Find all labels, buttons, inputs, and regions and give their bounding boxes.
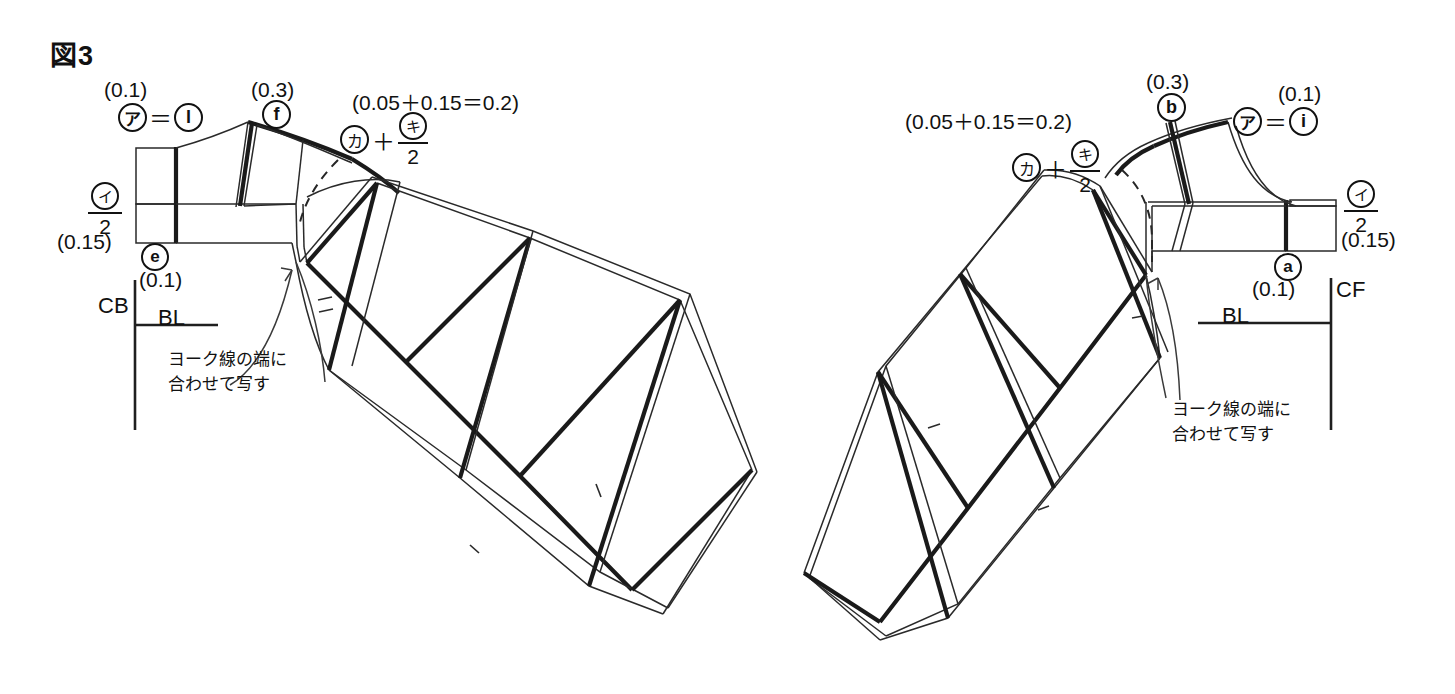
left-i-fraction-bar (88, 212, 122, 214)
right-paren-0-1-top: (0.1) (1278, 82, 1321, 106)
right-mark-a-jp-circle: ア (1233, 107, 1262, 136)
left-callout-text: ヨーク線の端に 合わせて写す (168, 348, 287, 397)
left-paren-0-1-bottom: (0.1) (139, 268, 182, 292)
left-mark-l-group: ア ＝ l (118, 100, 203, 134)
left-formula-ka-ki: カ ＋ キ 2 (340, 112, 428, 167)
left-paren-0-3: (0.3) (251, 78, 294, 102)
left-fraction-i-2: イ 2 (88, 182, 122, 237)
right-mark-i-group: ア ＝ i (1233, 104, 1318, 138)
right-label-bl: BL (1222, 303, 1249, 329)
right-mark-i-jp-circle: イ (1347, 180, 1375, 208)
left-mark-f-group: f (262, 100, 291, 129)
left-label-bl: BL (158, 305, 185, 331)
left-callout-line2: 合わせて写す (168, 373, 287, 398)
right-i-fraction-bar (1344, 210, 1378, 212)
right-paren-0-3: (0.3) (1146, 70, 1189, 94)
left-mark-i-jp-circle: イ (91, 182, 119, 210)
left-plus-sign: ＋ (372, 123, 395, 157)
right-callout-line2: 合わせて写す (1172, 423, 1291, 448)
figure-title: 図3 (50, 34, 94, 73)
left-mark-e-group: e (141, 243, 169, 271)
right-mark-b-group: b (1157, 93, 1186, 122)
right-callout-text: ヨーク線の端に 合わせて写す (1172, 398, 1291, 447)
right-callout-line1: ヨーク線の端に (1172, 398, 1291, 423)
left-label-cb: CB (98, 293, 129, 319)
left-fraction-bar (398, 142, 428, 144)
right-plus-sign: ＋ (1044, 151, 1067, 185)
left-mark-e-circle: e (141, 243, 169, 271)
left-mark-ki-circle: キ (399, 112, 427, 140)
left-callout-line1: ヨーク線の端に (168, 348, 287, 373)
right-formula-ka-ki: カ ＋ キ 2 (1012, 140, 1100, 195)
figure-canvas: 図3 (0.1) ア ＝ l (0.3) f (0.05＋0.15＝0.2) カ… (0, 0, 1455, 694)
left-paren-0-1-top: (0.1) (104, 78, 147, 102)
right-mark-ki-circle: キ (1071, 140, 1099, 168)
right-formula-sum: (0.05＋0.15＝0.2) (905, 105, 1072, 135)
figure-title-text: 図3 (50, 41, 94, 71)
left-fraction-ki-2: キ 2 (398, 112, 428, 167)
right-fraction-ki-2: キ 2 (1070, 140, 1100, 195)
right-yoke-block (1105, 118, 1336, 262)
left-mark-a-jp-circle: ア (118, 103, 147, 132)
right-paren-0-1-bottom: (0.1) (1252, 277, 1295, 301)
left-mark-ka-circle: カ (340, 125, 369, 154)
right-fraction-denominator: 2 (1079, 174, 1091, 195)
right-mark-ka-circle: カ (1012, 153, 1041, 182)
right-fraction-bar (1070, 170, 1100, 172)
right-fraction-i-2: イ 2 (1344, 180, 1378, 235)
right-sleeve-body (804, 170, 1168, 640)
left-paren-0-15: (0.15) (57, 230, 112, 254)
right-mark-b-circle: b (1157, 93, 1186, 122)
left-mark-f-circle: f (262, 100, 291, 129)
right-label-cf: CF (1336, 277, 1365, 303)
right-paren-0-15: (0.15) (1341, 228, 1396, 252)
left-yoke-block (136, 122, 352, 243)
right-mark-i-circle: i (1289, 107, 1318, 136)
left-fraction-denominator: 2 (407, 146, 419, 167)
right-eq-sign: ＝ (1264, 104, 1287, 138)
left-eq-sign: ＝ (149, 100, 172, 134)
left-sleeve-body (296, 177, 757, 614)
right-pattern-group (804, 118, 1336, 640)
left-mark-l-circle: l (174, 103, 203, 132)
